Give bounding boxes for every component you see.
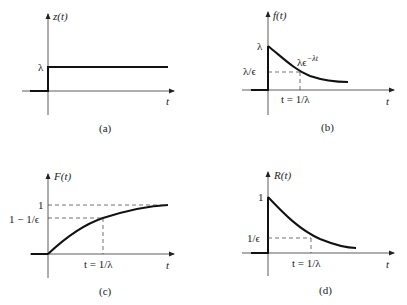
t-mark-label: t = 1/λ — [84, 258, 113, 270]
caption: (b) — [321, 121, 334, 134]
caption: (d) — [319, 284, 332, 297]
hazard-curve — [30, 67, 168, 91]
panel-d: 1 1/ϵ R(t) t t = 1/λ (d) — [242, 169, 394, 297]
mark-label: 1 − 1/ϵ — [9, 213, 40, 225]
y-axis-label: f(t) — [273, 9, 287, 22]
y-axis-label: R(t) — [273, 169, 291, 182]
start-label: λ — [257, 40, 263, 52]
caption: (a) — [99, 122, 112, 135]
curve-label: λϵ−λt — [297, 54, 319, 68]
t-mark-label: t = 1/λ — [292, 257, 321, 269]
x-axis-label: t — [166, 95, 170, 107]
t-mark-label: t = 1/λ — [281, 93, 310, 105]
y-axis-label: z(t) — [52, 10, 68, 23]
panel-c: 1 1 − 1/ϵ F(t) t t = 1/λ (c) — [9, 170, 174, 298]
panel-b: λ λ/ϵ λϵ−λt f(t) t t = 1/λ (b) — [242, 9, 394, 134]
reliability-step — [251, 197, 268, 253]
x-axis-label: t — [166, 259, 170, 271]
level-label: λ — [38, 61, 44, 73]
caption: (c) — [99, 285, 112, 298]
mark-label: λ/ϵ — [243, 65, 256, 77]
y-axis-label: F(t) — [53, 170, 71, 183]
pdf-curve — [268, 46, 348, 82]
top-label: 1 — [38, 199, 44, 211]
cdf-curve — [48, 205, 168, 254]
reliability-curve — [268, 197, 356, 248]
start-label: 1 — [258, 191, 264, 203]
x-axis-label: t — [386, 258, 390, 270]
mark-label: 1/ϵ — [247, 232, 261, 244]
panel-a: λ z(t) t (a) — [22, 10, 174, 135]
x-axis-label: t — [386, 95, 390, 107]
figure: λ z(t) t (a) λ λ/ϵ λϵ−λt f(t) t t = 1/λ … — [0, 0, 407, 305]
